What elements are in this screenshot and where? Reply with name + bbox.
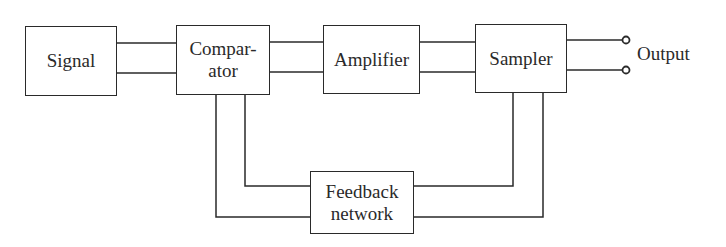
wire-feedback-comparator-outer (216, 95, 310, 217)
amplifier-block: Amplifier (323, 25, 420, 94)
comparator-label-line2: ator (208, 60, 238, 82)
amplifier-label: Amplifier (334, 49, 409, 71)
signal-label: Signal (47, 50, 96, 72)
block-diagram: Signal Compar- ator Amplifier Sampler Fe… (0, 0, 726, 247)
wire-sampler-feedback-inner (414, 93, 513, 186)
feedback-label-line1: Feedback (326, 181, 399, 203)
feedback-label-line2: network (331, 203, 393, 225)
output-terminal-top-icon (623, 37, 630, 44)
sampler-label: Sampler (489, 48, 552, 70)
output-label: Output (637, 43, 690, 65)
signal-block: Signal (25, 26, 117, 96)
output-terminal-bottom-icon (623, 67, 630, 74)
comparator-label-line1: Compar- (189, 38, 256, 60)
wire-sampler-feedback-outer (414, 93, 543, 217)
comparator-block: Compar- ator (176, 25, 270, 95)
feedback-network-block: Feedback network (310, 171, 414, 234)
sampler-block: Sampler (475, 24, 567, 93)
wire-feedback-comparator-inner (245, 95, 310, 186)
